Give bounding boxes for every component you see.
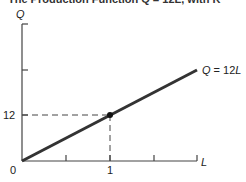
line-label: Q = 12L	[202, 64, 241, 76]
production-function-chart: Q L 0 12 1 Q = 12L	[0, 0, 246, 182]
origin-label: 0	[10, 164, 16, 176]
x-tick-label-1: 1	[107, 164, 113, 176]
x-axis-label: L	[201, 156, 207, 168]
data-point-1-12	[107, 112, 113, 118]
y-tick-label-12: 12	[3, 109, 15, 121]
y-axis-label: Q	[16, 8, 25, 20]
